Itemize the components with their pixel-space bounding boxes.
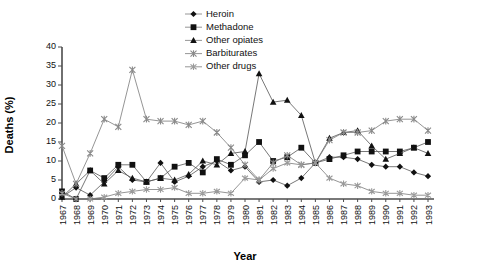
data-point-marker xyxy=(115,162,121,168)
data-point-marker xyxy=(327,156,333,162)
legend-item-other-drugs: Other drugs xyxy=(185,60,256,71)
legend-item-other-opiates: Other opiates xyxy=(185,34,263,45)
x-axis-tick-label: 1984 xyxy=(297,205,307,225)
y-axis-tick-label: 35 xyxy=(46,60,56,70)
x-axis-tick-label: 1990 xyxy=(381,205,391,225)
data-point-marker xyxy=(199,158,206,164)
x-axis-tick-label: 1979 xyxy=(226,205,236,225)
x-axis-tick-label: 1972 xyxy=(128,205,138,225)
x-axis-tick-label: 1993 xyxy=(424,205,434,225)
x-axis-tick-label: 1983 xyxy=(283,205,293,225)
y-axis-tick-label: 15 xyxy=(46,136,56,146)
chart-series xyxy=(59,66,432,202)
data-point-marker xyxy=(73,180,79,187)
x-axis-tick-label: 1967 xyxy=(58,205,68,225)
data-point-marker xyxy=(425,150,432,156)
line-chart: HeroinMethadoneOther opiatesBarbiturates… xyxy=(0,0,480,268)
data-point-marker xyxy=(115,167,122,173)
x-axis-tick-label: 1985 xyxy=(311,205,321,225)
x-axis-tick-label: 1981 xyxy=(255,205,265,225)
x-axis-title: Year xyxy=(233,250,257,262)
chart-legend: HeroinMethadoneOther opiatesBarbiturates… xyxy=(185,8,263,72)
data-point-marker xyxy=(200,118,206,125)
data-point-marker xyxy=(186,122,192,129)
x-axis-tick-label: 1973 xyxy=(142,205,152,225)
data-point-marker xyxy=(383,149,389,155)
data-point-marker xyxy=(190,11,196,17)
y-axis-title: Deaths (%) xyxy=(3,96,15,153)
x-axis-tick-label: 1988 xyxy=(353,205,363,225)
data-point-marker xyxy=(383,164,389,170)
data-point-marker xyxy=(228,167,234,173)
x-axis-tick-label: 1980 xyxy=(241,205,251,225)
data-point-marker xyxy=(200,164,206,170)
data-point-marker xyxy=(186,160,192,166)
y-axis-tick-label: 5 xyxy=(51,174,56,184)
data-point-marker xyxy=(59,142,65,149)
data-point-marker xyxy=(228,144,234,151)
data-point-marker xyxy=(157,160,163,166)
y-axis-tick-label: 20 xyxy=(46,117,56,127)
legend-item-heroin: Heroin xyxy=(185,8,234,19)
data-point-marker xyxy=(129,66,135,73)
data-point-marker xyxy=(115,123,121,130)
data-point-marker xyxy=(200,170,206,176)
y-axis-tick-label: 25 xyxy=(46,98,56,108)
x-axis-tick-label: 1991 xyxy=(395,205,405,225)
data-point-marker xyxy=(284,97,291,103)
y-axis-tick-label: 0 xyxy=(51,193,56,203)
data-point-marker xyxy=(270,177,276,183)
x-axis-tick-label: 1974 xyxy=(156,205,166,225)
data-point-marker xyxy=(228,162,234,168)
x-axis-tick-label: 1968 xyxy=(72,205,82,225)
data-point-marker xyxy=(355,149,361,155)
data-point-marker xyxy=(172,164,178,170)
chart-container: HeroinMethadoneOther opiatesBarbiturates… xyxy=(0,0,480,268)
data-point-marker xyxy=(214,156,220,162)
data-point-marker xyxy=(101,116,107,123)
x-axis-tick-label: 1992 xyxy=(409,205,419,225)
data-point-marker xyxy=(425,139,431,145)
data-point-marker xyxy=(284,183,290,189)
data-point-marker xyxy=(298,145,304,151)
data-point-marker xyxy=(341,152,347,158)
data-point-marker xyxy=(355,156,361,162)
x-axis-tick-label: 1978 xyxy=(212,205,222,225)
x-axis-tick-label: 1987 xyxy=(339,205,349,225)
data-point-marker xyxy=(369,162,375,168)
x-axis-tick-label: 1982 xyxy=(269,205,279,225)
data-point-marker xyxy=(191,24,197,30)
data-point-marker xyxy=(270,165,276,171)
x-axis-tick-label: 1971 xyxy=(114,205,124,225)
data-point-marker xyxy=(369,149,375,155)
data-point-marker xyxy=(87,150,93,157)
legend-label: Methadone xyxy=(206,21,254,32)
data-point-marker xyxy=(326,175,332,181)
legend-item-methadone: Methadone xyxy=(185,21,254,32)
x-axis-tick-label: 1977 xyxy=(198,205,208,225)
data-point-marker xyxy=(256,139,262,145)
data-point-marker xyxy=(425,173,431,179)
y-axis-tick-label: 10 xyxy=(46,155,56,165)
data-point-marker xyxy=(214,129,220,136)
x-axis-tick-label: 1969 xyxy=(86,205,96,225)
data-point-marker xyxy=(397,164,403,170)
x-axis-tick-label: 1975 xyxy=(170,205,180,225)
legend-label: Other drugs xyxy=(206,60,256,71)
legend-item-barbiturates: Barbiturates xyxy=(185,47,257,58)
data-point-marker xyxy=(425,127,431,134)
legend-label: Other opiates xyxy=(206,34,263,45)
x-axis-tick-label: 1970 xyxy=(100,205,110,225)
y-axis-tick-label: 40 xyxy=(46,41,56,51)
data-point-marker xyxy=(242,161,248,168)
x-axis-tick-label: 1989 xyxy=(367,205,377,225)
y-axis-tick-label: 30 xyxy=(46,79,56,89)
data-point-marker xyxy=(101,175,107,181)
legend-label: Barbiturates xyxy=(206,47,257,58)
data-point-marker xyxy=(256,70,263,76)
data-point-marker xyxy=(411,169,417,175)
legend-label: Heroin xyxy=(206,8,234,19)
data-point-marker xyxy=(129,162,135,168)
x-axis-tick-label: 1986 xyxy=(325,205,335,225)
x-axis-tick-label: 1976 xyxy=(184,205,194,225)
